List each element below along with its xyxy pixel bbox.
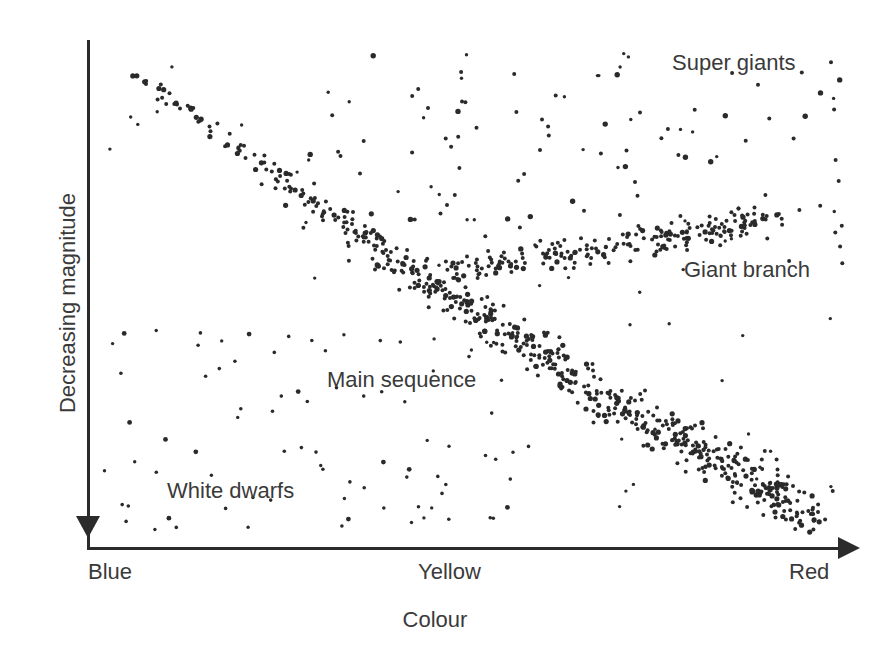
x-axis-arrow-icon [838, 537, 860, 559]
x-axis-line [88, 547, 845, 550]
annotation-white-dwarfs: White dwarfs [167, 478, 294, 504]
hr-diagram-figure: Decreasing magnitude Colour Blue Yellow … [0, 0, 882, 653]
y-axis-label: Decreasing magnitude [55, 173, 81, 433]
annotation-main-sequence: Main sequence [327, 367, 476, 393]
annotation-giant-branch: Giant branch [684, 257, 810, 283]
y-axis-line [87, 40, 90, 550]
scatter-plot-layer [0, 0, 882, 653]
x-tick-label-red: Red [789, 559, 829, 585]
y-axis-arrow-icon [76, 516, 100, 538]
x-tick-label-yellow: Yellow [418, 559, 481, 585]
annotation-super-giants: Super giants [672, 50, 796, 76]
x-axis-label-text: Colour [403, 607, 468, 633]
x-axis-label: Colour [0, 607, 882, 633]
x-tick-label-blue: Blue [88, 559, 132, 585]
